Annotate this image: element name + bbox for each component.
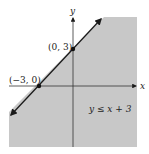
inequality-graph: y x (0, 3) (−3, 0) y ≤ x + 3 (0, 0, 149, 154)
point-b-label: (0, 3) (48, 42, 72, 52)
inequality-label: y ≤ x + 3 (88, 104, 132, 114)
point-a-label: (−3, 0) (9, 75, 41, 85)
x-axis-label: x (140, 81, 145, 91)
y-axis-label: y (69, 6, 76, 16)
